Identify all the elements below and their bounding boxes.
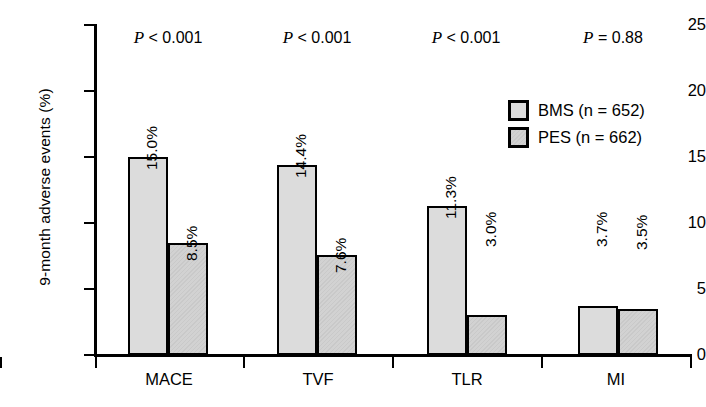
- legend-item-pes: PES (n = 662): [508, 124, 645, 151]
- x-tick-3: [541, 357, 543, 368]
- y-tick-0: [84, 354, 95, 356]
- x-tick-mace-tvf: [0, 357, 2, 368]
- p-text-tvf: < 0.001: [293, 29, 351, 46]
- bar-mi-bms: [578, 306, 618, 355]
- x-tick-start: [95, 357, 97, 368]
- p-text-tlr: < 0.001: [442, 29, 500, 46]
- bar-tlr-pes: [467, 315, 507, 355]
- y-tick-15: [84, 156, 95, 158]
- p-value-tlr: P < 0.001: [406, 28, 526, 48]
- p-value-mace: P < 0.001: [108, 28, 228, 48]
- bar-tvf-bms: [277, 165, 317, 355]
- x-tick-1: [243, 357, 245, 368]
- p-value-mi: P = 0.88: [558, 28, 668, 48]
- bar-tlr-bms: [427, 206, 467, 355]
- y-tick-5: [84, 288, 95, 290]
- x-label-mi: MI: [556, 370, 676, 389]
- x-label-tvf: TVF: [258, 370, 378, 389]
- p-symbol-tlr: P: [432, 28, 442, 47]
- legend-swatch-pes-icon: [508, 127, 529, 148]
- bar-value-tvf-bms: 14.4%: [293, 134, 309, 178]
- x-tick-2: [392, 357, 394, 368]
- y-tick-25: [84, 24, 95, 26]
- legend-swatch-bms-icon: [508, 100, 529, 121]
- bar-value-tlr-bms: 11.3%: [443, 176, 459, 219]
- y-axis-title: 9-month adverse events (%): [36, 22, 54, 352]
- p-text-mi: = 0.88: [594, 29, 643, 46]
- y-tick-10: [84, 222, 95, 224]
- x-tick-end: [690, 357, 692, 368]
- bar-value-tvf-pes: 7.6%: [333, 238, 349, 273]
- p-symbol-mace: P: [134, 28, 144, 47]
- p-symbol-mi: P: [583, 28, 593, 47]
- y-tick-20: [84, 90, 95, 92]
- bar-value-mace-pes: 8.5%: [184, 226, 200, 261]
- x-label-tlr: TLR: [407, 370, 527, 389]
- bar-mi-pes: [618, 309, 658, 355]
- legend-label-pes: PES (n = 662): [538, 128, 642, 147]
- legend: BMS (n = 652) PES (n = 662): [508, 97, 645, 151]
- bar-chart: 9-month adverse events (%) 0 5 10 15 20 …: [0, 0, 706, 407]
- bar-value-mace-bms: 15.0%: [144, 126, 160, 170]
- p-symbol-tvf: P: [283, 28, 293, 47]
- bar-value-mi-bms: 3.7%: [594, 212, 610, 247]
- plot-area: 15.0% 8.5% 14.4% 7.6% 11.3% 3.0% 3.7% 3.…: [96, 25, 690, 355]
- x-label-mace: MACE: [109, 370, 229, 389]
- bar-value-tlr-pes: 3.0%: [483, 212, 499, 247]
- bar-mace-bms: [128, 157, 168, 355]
- p-text-mace: < 0.001: [144, 29, 202, 46]
- legend-label-bms: BMS (n = 652): [538, 101, 645, 120]
- bar-value-mi-pes: 3.5%: [634, 215, 650, 250]
- legend-item-bms: BMS (n = 652): [508, 97, 645, 124]
- p-value-tvf: P < 0.001: [257, 28, 377, 48]
